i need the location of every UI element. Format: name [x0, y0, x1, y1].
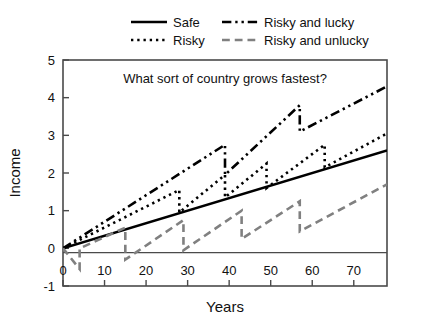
x-tick-label: 60 — [305, 263, 319, 278]
y-tick-label: 5 — [48, 53, 55, 68]
chart-legend: SafeRisky and luckyRiskyRisky and unluck… — [131, 15, 369, 48]
plot-title: What sort of country grows fastest? — [123, 71, 327, 86]
x-tick-label: 50 — [263, 263, 277, 278]
x-tick-label: 0 — [59, 263, 66, 278]
y-axis: -1012345 — [43, 53, 69, 294]
series-risky-and-lucky — [63, 86, 387, 248]
y-tick-label: 3 — [48, 128, 55, 143]
y-tick-label: 2 — [48, 166, 55, 181]
income-growth-line-chart: SafeRisky and luckyRiskyRisky and unluck… — [0, 0, 428, 329]
figure-root: SafeRisky and luckyRiskyRisky and unluck… — [0, 0, 428, 329]
y-axis-title: Income — [6, 148, 23, 197]
legend-entry-risky: Risky — [131, 33, 205, 48]
y-tick-label: 4 — [48, 90, 55, 105]
x-tick-label: 40 — [222, 263, 236, 278]
legend-label: Risky and unlucky — [264, 33, 369, 48]
cropped-caption-strip — [0, 313, 428, 329]
y-tick-label: -1 — [43, 279, 55, 294]
series-risky — [63, 133, 387, 248]
x-tick-label: 30 — [180, 263, 194, 278]
legend-label: Safe — [173, 15, 200, 30]
legend-entry-safe: Safe — [131, 15, 200, 30]
x-tick-label: 10 — [97, 263, 111, 278]
legend-label: Risky and lucky — [264, 15, 355, 30]
x-tick-label: 20 — [139, 263, 153, 278]
legend-entry-risky-and-unlucky: Risky and unlucky — [222, 33, 369, 48]
series-risky-and-unlucky — [63, 184, 387, 269]
x-tick-label: 70 — [347, 263, 361, 278]
y-tick-label: 1 — [48, 203, 55, 218]
x-axis: 010203040506070 — [59, 263, 361, 286]
legend-label: Risky — [173, 33, 205, 48]
y-tick-label: 0 — [48, 241, 55, 256]
data-series-group — [63, 86, 387, 269]
legend-entry-risky-and-lucky: Risky and lucky — [222, 15, 355, 30]
